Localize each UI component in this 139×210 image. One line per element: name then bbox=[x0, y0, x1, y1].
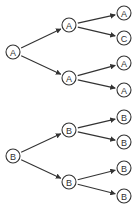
node-label: A bbox=[121, 86, 127, 96]
arrow-edge bbox=[78, 27, 115, 36]
tree-node-b-leaf4: B bbox=[117, 189, 131, 203]
tree-node-a-leaf1: A bbox=[117, 6, 131, 20]
node-label: B bbox=[121, 138, 127, 148]
tree-node-b-mid2: B bbox=[62, 175, 76, 189]
tree-node-a-leaf3: A bbox=[117, 56, 131, 70]
node-label: B bbox=[66, 178, 72, 188]
node-label: B bbox=[10, 152, 16, 162]
arrow-edge bbox=[21, 160, 61, 178]
arrow-edge bbox=[21, 134, 61, 152]
node-label: B bbox=[121, 164, 127, 174]
arrow-edge bbox=[78, 132, 115, 140]
tree-node-b-leaf1: B bbox=[117, 110, 131, 124]
arrow-edge bbox=[21, 29, 61, 48]
node-label: A bbox=[66, 74, 72, 84]
node-label: A bbox=[66, 21, 72, 31]
tree-node-a-mid1: A bbox=[62, 18, 76, 32]
edges-group bbox=[21, 15, 115, 194]
node-label: A bbox=[121, 9, 127, 19]
tree-node-a-root: A bbox=[6, 45, 20, 59]
node-label: B bbox=[66, 126, 72, 136]
node-label: B bbox=[121, 113, 127, 123]
arrow-edge bbox=[78, 119, 115, 128]
arrow-edge bbox=[78, 170, 116, 180]
arrow-edge bbox=[78, 65, 116, 75]
tree-node-b-root: B bbox=[6, 149, 20, 163]
tree-node-b-leaf3: B bbox=[117, 161, 131, 175]
node-label: C bbox=[121, 34, 128, 44]
tree-node-a-leaf4: A bbox=[117, 83, 131, 97]
arrow-edge bbox=[78, 15, 115, 23]
arrow-edge bbox=[78, 80, 115, 88]
tree-node-b-leaf2: B bbox=[117, 135, 131, 149]
node-label: B bbox=[121, 192, 127, 202]
tree-node-a-mid2: A bbox=[62, 71, 76, 85]
node-label: A bbox=[10, 48, 16, 58]
tree-diagram: AAAACAABBBBBBB bbox=[0, 0, 139, 210]
tree-node-a-leaf2: C bbox=[117, 31, 131, 45]
node-label: A bbox=[121, 59, 127, 69]
tree-node-b-mid1: B bbox=[62, 123, 76, 137]
arrow-edge bbox=[21, 56, 61, 74]
arrow-edge bbox=[78, 184, 116, 194]
